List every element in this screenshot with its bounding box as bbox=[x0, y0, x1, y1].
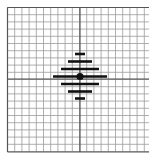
center-dot bbox=[76, 73, 83, 80]
center-dot-circle bbox=[76, 73, 83, 80]
grid-diagram bbox=[0, 0, 149, 158]
grid-lines bbox=[8, 8, 150, 153]
